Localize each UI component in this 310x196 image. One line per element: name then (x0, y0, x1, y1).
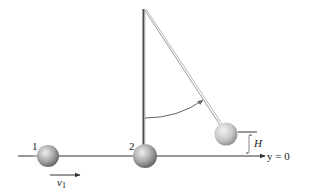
height-label: H (253, 137, 263, 149)
velocity-symbol: v1 (57, 176, 66, 190)
reference-label: y = 0 (267, 150, 290, 162)
velocity-subscript: 1 (62, 181, 66, 190)
ball-2-label: 2 (129, 140, 135, 152)
ball-1 (37, 145, 59, 167)
ball-2 (133, 144, 157, 168)
swing-arc-arrow (145, 100, 203, 118)
string-highlight (146, 9, 222, 124)
pendulum-string-swung (144, 9, 220, 125)
ball-swung (215, 123, 238, 146)
ball-1-label: 1 (32, 140, 38, 152)
pendulum-diagram: 1 2 H y = 0 v1 (0, 0, 310, 196)
